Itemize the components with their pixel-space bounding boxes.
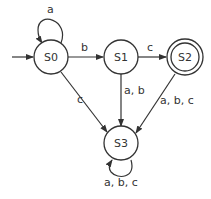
edge-s3-s3 <box>109 160 131 176</box>
state-label-s0: S0 <box>44 51 58 64</box>
edge-label-s1-s2: c <box>147 41 153 54</box>
edge-label-s0-s3: c <box>77 93 83 106</box>
state-diagram: a b c c a, b a, b, c a, b, c S0 S1 S2 S3 <box>0 0 211 199</box>
edge-label-s3-s3: a, b, c <box>104 176 138 189</box>
state-s3: S3 <box>104 126 138 160</box>
edge-label-s0-s1: b <box>81 41 88 54</box>
state-s0: S0 <box>34 40 68 74</box>
edge-s0-s3 <box>61 72 107 132</box>
state-s1: S1 <box>104 40 138 74</box>
edge-label-s2-s3: a, b, c <box>160 94 194 107</box>
state-label-s1: S1 <box>114 51 128 64</box>
state-label-s2: S2 <box>178 51 192 64</box>
edge-label-s1-s3: a, b <box>124 84 145 97</box>
state-s2-accepting: S2 <box>167 39 203 75</box>
edge-label-s0-s0: a <box>47 3 54 16</box>
state-label-s3: S3 <box>114 137 128 150</box>
